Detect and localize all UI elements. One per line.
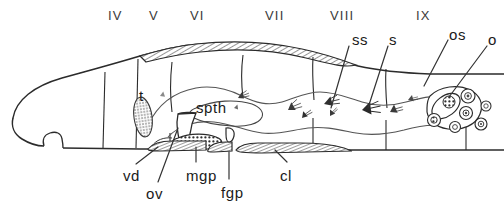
segment-label-ix: IX <box>416 9 431 22</box>
gut-outline <box>148 87 456 137</box>
ventral-band <box>148 141 352 153</box>
leader-line-os <box>424 40 448 86</box>
organ-label-mgp: mgp <box>186 168 217 183</box>
leader-line-ov <box>158 128 178 182</box>
organ-label-os: os <box>449 27 466 42</box>
worm-sagittal-section-drawing <box>0 0 504 214</box>
segment-label-v: V <box>149 9 159 22</box>
organ-label-t: t <box>139 88 144 103</box>
organ-label-cl: cl <box>280 168 292 183</box>
female-pore <box>226 128 234 142</box>
anatomical-figure: IVVVIVIIVIIIIX sssosotspthvdovmgpfgpcl <box>0 0 504 214</box>
organ-label-ov: ov <box>146 186 163 201</box>
ovary-region <box>427 87 491 133</box>
segment-label-vi: VI <box>190 9 205 22</box>
organ-label-fgp: fgp <box>221 185 244 200</box>
segment-label-iv: IV <box>108 9 123 22</box>
segment-label-vii: VII <box>265 9 285 22</box>
organ-label-s: s <box>389 32 397 47</box>
organ-label-o: o <box>488 32 497 47</box>
septa <box>103 55 466 150</box>
leader-line-s <box>368 46 388 108</box>
organ-label-vd: vd <box>123 168 140 183</box>
organ-label-ss: ss <box>352 32 368 47</box>
organ-label-spth: spth <box>196 100 227 115</box>
segment-label-viii: VIII <box>330 9 354 22</box>
leader-line-ss <box>331 46 349 108</box>
